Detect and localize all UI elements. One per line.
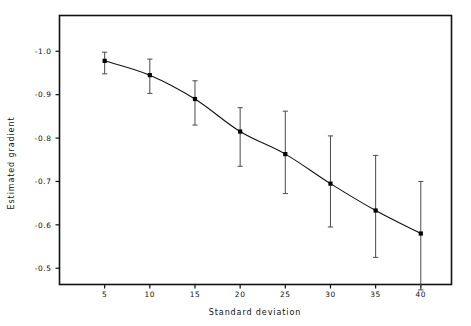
data-point-marker bbox=[283, 152, 287, 156]
chart-figure: -1.0-0.9-0.8-0.7-0.6-0.5 510152025303540… bbox=[0, 0, 471, 326]
errorbar-line-chart: -1.0-0.9-0.8-0.7-0.6-0.5 510152025303540… bbox=[0, 0, 471, 326]
y-tick-label: -1.0 bbox=[35, 47, 52, 56]
data-point-marker bbox=[103, 59, 107, 63]
y-tick-label: -0.7 bbox=[35, 177, 52, 186]
x-tick-label: 15 bbox=[190, 290, 201, 299]
x-tick-label: 30 bbox=[325, 290, 336, 299]
y-tick-label: -0.8 bbox=[35, 134, 52, 143]
y-tick-label: -0.6 bbox=[35, 221, 52, 230]
x-tick-label: 5 bbox=[102, 290, 107, 299]
x-tick-label: 25 bbox=[280, 290, 291, 299]
data-point-marker bbox=[193, 97, 197, 101]
x-axis-title: Standard deviation bbox=[209, 308, 301, 317]
x-tick-label: 35 bbox=[370, 290, 381, 299]
x-tick-label: 10 bbox=[145, 290, 156, 299]
x-tick-label: 40 bbox=[415, 290, 426, 299]
x-tick-label: 20 bbox=[235, 290, 246, 299]
data-point-marker bbox=[238, 129, 242, 133]
data-point-marker bbox=[374, 208, 378, 212]
y-tick-label: -0.5 bbox=[35, 264, 52, 273]
data-point-marker bbox=[328, 182, 332, 186]
figure-background bbox=[0, 0, 471, 326]
y-tick-label: -0.9 bbox=[35, 90, 52, 99]
data-point-marker bbox=[148, 73, 152, 77]
y-axis-title: Estimated gradient bbox=[7, 117, 16, 210]
data-point-marker bbox=[419, 231, 423, 235]
